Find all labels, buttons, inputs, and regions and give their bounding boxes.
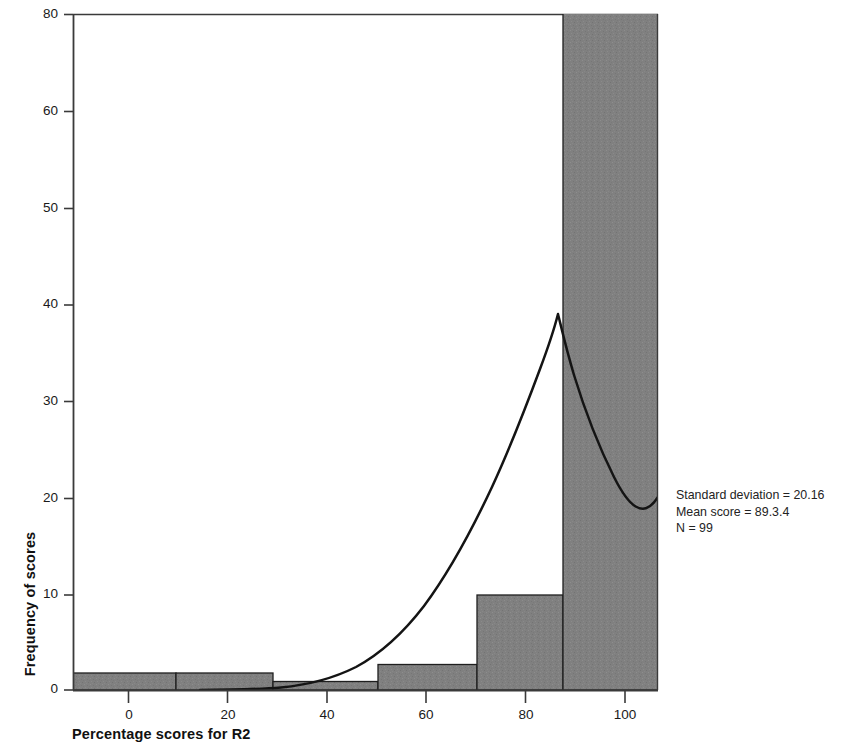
histogram-bar bbox=[378, 665, 477, 691]
x-tick-label-60: 60 bbox=[406, 707, 446, 722]
x-tick-label-100: 100 bbox=[605, 707, 645, 722]
y-tick-label-30: 30 bbox=[18, 393, 58, 408]
statistics-annotation: Standard deviation = 20.16 Mean score = … bbox=[676, 487, 824, 537]
plot-area bbox=[0, 0, 850, 753]
y-tick-label-50: 50 bbox=[18, 200, 58, 215]
sample-size-text: N = 99 bbox=[676, 520, 824, 537]
y-tick-label-60: 60 bbox=[18, 103, 58, 118]
y-tick-label-20: 20 bbox=[18, 490, 58, 505]
histogram-bar bbox=[73, 673, 176, 690]
histogram-bar bbox=[477, 595, 563, 690]
histogram-bar bbox=[176, 673, 273, 690]
x-tick-label-20: 20 bbox=[208, 707, 248, 722]
y-ticks-group bbox=[64, 15, 73, 691]
x-ticks-group bbox=[129, 690, 626, 703]
y-tick-label-80: 80 bbox=[18, 6, 58, 21]
histogram-bar-clipped bbox=[563, 10, 658, 690]
x-tick-label-0: 0 bbox=[109, 707, 149, 722]
mean-score-text: Mean score = 89.3.4 bbox=[676, 504, 824, 521]
x-axis-title: Percentage scores for R2 bbox=[72, 726, 251, 742]
y-tick-label-40: 40 bbox=[18, 296, 58, 311]
standard-deviation-text: Standard deviation = 20.16 bbox=[676, 487, 824, 504]
y-axis-title: Frequency of scores bbox=[22, 519, 38, 689]
histogram-chart: 80 60 50 40 30 20 10 0 0 20 40 60 80 100… bbox=[0, 0, 850, 753]
x-tick-label-40: 40 bbox=[307, 707, 347, 722]
x-tick-label-80: 80 bbox=[506, 707, 546, 722]
